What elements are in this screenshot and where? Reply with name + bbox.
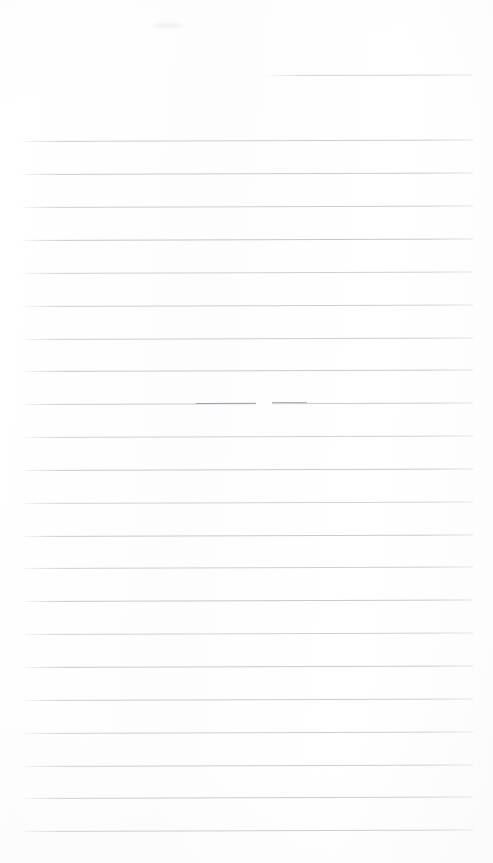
rule-15	[19, 566, 473, 570]
rule-ink	[19, 272, 473, 274]
rule-ink	[19, 338, 473, 340]
rule-ink	[19, 535, 473, 537]
rule-04	[19, 205, 473, 209]
rule-07	[19, 304, 473, 308]
rule-13	[19, 501, 473, 505]
rule-12	[19, 468, 473, 472]
rule-17	[19, 632, 473, 636]
rule-21	[19, 764, 473, 768]
rule-ink	[19, 140, 473, 142]
rule-ink	[19, 206, 473, 208]
rule-19	[19, 698, 473, 702]
rule-ink	[19, 699, 473, 701]
rule-ink	[19, 830, 473, 832]
rule-01	[263, 73, 472, 77]
paper-surface	[0, 0, 493, 863]
rule-ink	[19, 732, 473, 734]
rule-ink	[19, 436, 473, 438]
rule-ink	[19, 403, 473, 405]
rule-ink	[19, 666, 473, 668]
rule-ink	[19, 567, 473, 569]
rule-ink	[19, 173, 473, 175]
rule-ink	[19, 502, 473, 504]
rule-16	[19, 599, 473, 603]
rule-20	[19, 731, 473, 735]
faint-smudge	[154, 23, 182, 28]
scanned-page	[0, 0, 493, 863]
rule-03	[19, 172, 473, 176]
rule-09	[19, 369, 473, 373]
rule-ink	[19, 469, 473, 471]
rule-ink	[19, 797, 473, 799]
dark-stroke-right	[272, 402, 307, 403]
rule-ink	[19, 765, 473, 767]
rule-06	[19, 271, 473, 275]
rule-ink	[19, 370, 473, 372]
rule-10	[19, 402, 473, 406]
rule-ink	[19, 238, 473, 241]
rule-14	[19, 534, 473, 538]
rule-18	[19, 665, 473, 669]
rule-08	[19, 337, 473, 341]
rule-05	[19, 237, 473, 242]
rule-23	[19, 829, 473, 833]
rule-22	[19, 796, 473, 800]
dark-stroke-left	[196, 403, 256, 404]
rule-11	[19, 435, 473, 439]
scan-vignette	[0, 0, 493, 863]
rule-02	[19, 139, 473, 143]
rule-ink	[19, 633, 473, 635]
rule-ink	[19, 305, 473, 307]
rule-ink	[263, 74, 472, 76]
ink-gap	[256, 403, 272, 406]
rule-ink	[19, 600, 473, 602]
